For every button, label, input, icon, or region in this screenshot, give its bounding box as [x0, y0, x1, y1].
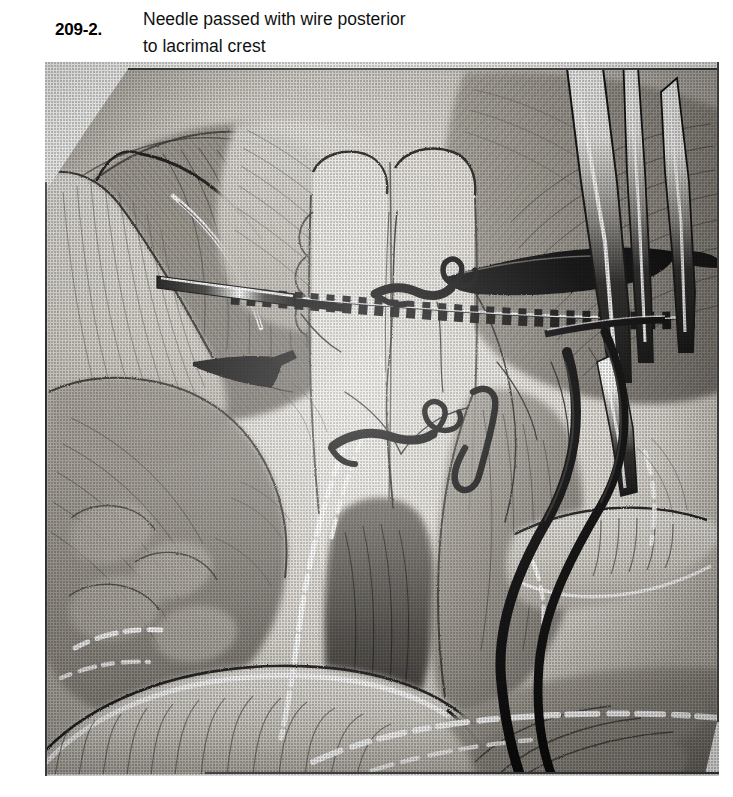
- surgical-illustration: Dacryocystorhinostomy / medial canthal r…: [45, 62, 719, 776]
- figure-caption: Needle passed with wire posterior to lac…: [143, 6, 493, 60]
- figure-number: 209-2.: [55, 20, 102, 40]
- figure-caption-block: 209-2. Needle passed with wire posterior…: [0, 0, 733, 70]
- figure-caption-line-2: to lacrimal crest: [143, 33, 493, 60]
- illustration-plate: Dacryocystorhinostomy / medial canthal r…: [45, 62, 719, 776]
- figure-caption-line-1: Needle passed with wire posterior: [143, 6, 493, 33]
- plate-border-top: [128, 68, 719, 70]
- plate-border-right: [717, 62, 719, 722]
- plate-border-bottom: [205, 772, 719, 774]
- plate-border-left: [45, 182, 47, 776]
- illustration-artwork: [45, 62, 719, 776]
